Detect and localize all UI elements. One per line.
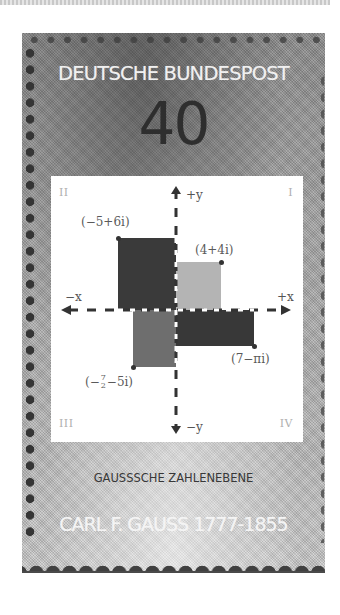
perforation-top bbox=[26, 36, 321, 44]
point-label-minus5-plus6i: (−5+6i) bbox=[81, 215, 130, 229]
postage-stamp: DEUTSCHE BUNDESPOST 40 II I III IV bbox=[22, 33, 325, 573]
pos-y-label: +y bbox=[186, 188, 203, 202]
pos-x-label: +x bbox=[277, 290, 294, 304]
point-dot-minus5-plus6i bbox=[116, 236, 121, 241]
x-axis-left-arrow-icon bbox=[61, 305, 71, 315]
label-prefix: (− bbox=[85, 375, 100, 389]
point-label-4-plus4i: (4+4i) bbox=[195, 243, 234, 257]
top-border-line bbox=[0, 0, 330, 5]
point-dot-7-minus-pi-i bbox=[252, 344, 257, 349]
fraction-denominator: 2 bbox=[101, 382, 106, 390]
complex-plane-panel: II I III IV bbox=[51, 176, 303, 442]
label-suffix: −5i) bbox=[107, 375, 133, 389]
perforation-bottom-edge bbox=[22, 571, 325, 573]
neg-x-label: −x bbox=[65, 290, 82, 304]
neg-y-label: −y bbox=[186, 420, 203, 434]
point-label-7-minus-pi-i: (7−πi) bbox=[231, 352, 270, 366]
fraction: 72 bbox=[101, 374, 106, 390]
point-dot-minus7half-minus5i bbox=[131, 365, 136, 370]
x-axis-right-arrow-icon bbox=[281, 305, 291, 315]
y-axis-down-arrow-icon bbox=[171, 426, 181, 434]
stamp-caption: GAUSSSCHE ZAHLENEBENE bbox=[22, 471, 325, 485]
stamp-footer: CARL F. GAUSS 1777-1855 bbox=[22, 513, 325, 535]
y-axis-up-arrow-icon bbox=[171, 186, 181, 194]
stamp-country: DEUTSCHE BUNDESPOST bbox=[22, 62, 325, 85]
stamp-denomination: 40 bbox=[22, 95, 325, 153]
point-dot-4-plus4i bbox=[219, 260, 224, 265]
point-label-minus7half-minus5i: (−72−5i) bbox=[85, 374, 133, 390]
